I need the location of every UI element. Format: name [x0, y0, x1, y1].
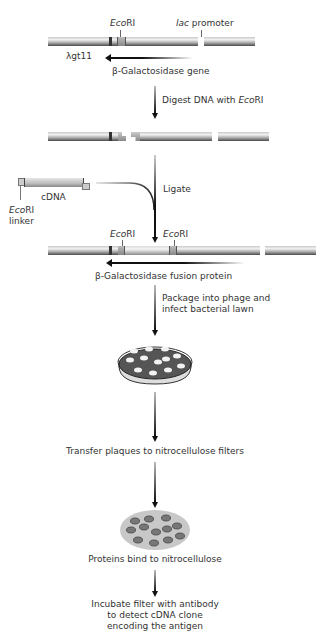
nitrocellulose-filter-icon: [0, 0, 336, 640]
step-incubate-label-3: encoding the antigen: [40, 621, 270, 632]
step-arrow-incubate: [154, 570, 156, 592]
step-incubate-label-1: Incubate filter with antibody: [40, 599, 270, 610]
step-bind-label: Proteins bind to nitrocellulose: [40, 554, 270, 565]
step-incubate-label-2: to detect cDNA clone: [40, 610, 270, 621]
arrowhead-incubate: [152, 591, 158, 597]
